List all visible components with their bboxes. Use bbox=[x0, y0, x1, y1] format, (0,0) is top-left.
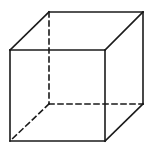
cube-edges bbox=[10, 12, 143, 141]
cube-drawing bbox=[0, 0, 156, 147]
bottom-right-diagonal-edge bbox=[105, 104, 143, 141]
cube-diagram bbox=[0, 0, 156, 147]
top-left-diagonal-edge bbox=[10, 12, 49, 50]
bottom-left-diagonal-edge bbox=[10, 104, 49, 141]
top-right-diagonal-edge bbox=[105, 12, 143, 50]
